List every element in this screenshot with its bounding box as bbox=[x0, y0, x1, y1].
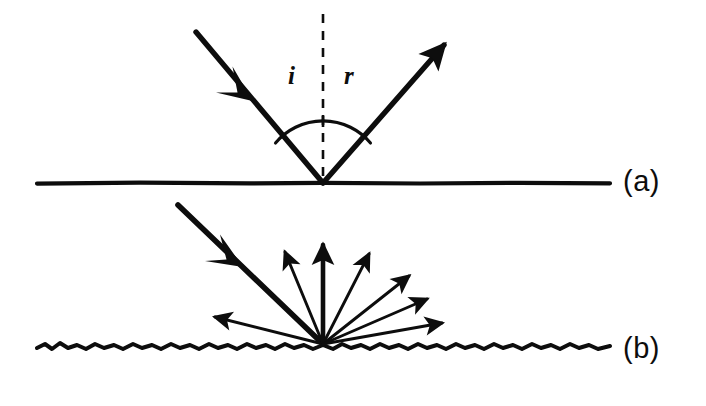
scattered-ray-4 bbox=[323, 254, 369, 344]
scattered-ray-7 bbox=[323, 323, 442, 344]
incident-ray-a bbox=[196, 32, 323, 183]
angle-of-incidence-label: i bbox=[288, 62, 295, 90]
panel-a-group bbox=[37, 14, 610, 184]
scattered-ray-5 bbox=[323, 276, 409, 344]
incident-ray-a-arrowhead bbox=[216, 67, 253, 102]
panel-b-group bbox=[37, 205, 610, 349]
scattered-ray-6 bbox=[323, 299, 427, 344]
reflected-ray-a bbox=[323, 45, 444, 183]
angle-of-reflection-label: r bbox=[344, 62, 354, 90]
scattered-ray-2 bbox=[285, 252, 323, 344]
incident-ray-b bbox=[178, 205, 323, 344]
diagram-canvas bbox=[0, 0, 706, 406]
panel-label-a: (a) bbox=[623, 165, 660, 198]
panel-label-b: (b) bbox=[623, 332, 660, 365]
reflection-diagram: i r (a) (b) bbox=[0, 0, 706, 406]
